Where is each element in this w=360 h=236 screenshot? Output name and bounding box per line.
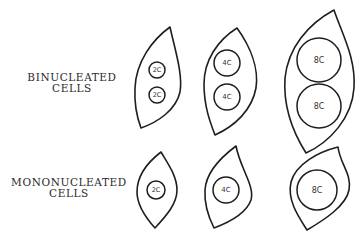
mononucleated-cell-4c: 4C <box>205 146 252 228</box>
cell-outline <box>204 28 257 135</box>
cell-diagram: 2C 2C 4C 4C 8C 8C 2C 4C 8C <box>0 0 360 236</box>
binucleated-cell-8c: 8C 8C <box>285 10 354 153</box>
nucleus-label: 2C <box>153 91 162 99</box>
binucleated-cell-4c: 4C 4C <box>204 28 257 135</box>
binucleated-cell-2c: 2C 2C <box>135 27 181 128</box>
nucleus-label: 8C <box>312 186 323 195</box>
nucleus-label: 2C <box>152 186 161 194</box>
nucleus-label: 8C <box>314 102 325 111</box>
mononucleated-cell-8c: 8C <box>290 147 349 230</box>
nucleus-label: 2C <box>153 66 162 74</box>
nucleus-label: 8C <box>314 56 325 65</box>
nucleus-label: 4C <box>222 59 231 67</box>
nucleus-label: 4C <box>222 93 231 101</box>
nucleus-label: 4C <box>221 186 230 194</box>
mononucleated-cell-2c: 2C <box>137 152 177 228</box>
